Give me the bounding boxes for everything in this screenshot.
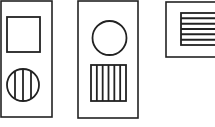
puzzle-diagram: [0, 0, 215, 127]
panel-3: [166, 2, 215, 57]
panel-frame: [1, 1, 52, 117]
square-striped-shape: [91, 65, 126, 101]
circle-striped-shape: [7, 69, 39, 101]
circle-shape: [93, 21, 127, 55]
panel-1: [1, 1, 52, 117]
panel-2: [78, 1, 138, 118]
square-shape: [7, 17, 40, 52]
rectangle-striped-shape: [181, 13, 215, 45]
